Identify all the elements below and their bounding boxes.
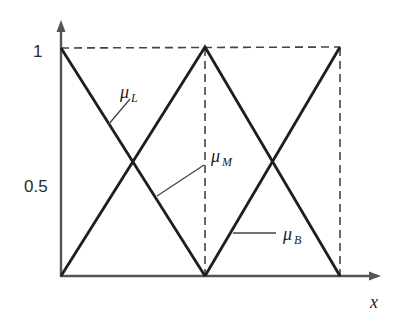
mu-l-symbol: μ [119,82,129,102]
y-tick-0-5: 0.5 [24,177,48,196]
mu-b-subscript: B [294,233,302,247]
dashed-line-top [61,47,340,48]
x-axis-arrow-icon [369,272,381,281]
leader-mu-m [157,165,204,196]
x-axis-label: x [369,292,378,312]
label-mu-m: μ M [210,146,233,169]
label-mu-l: μ L [119,82,138,105]
mu-l-subscript: L [130,91,138,105]
label-mu-b: μ B [282,224,302,247]
mu-b-symbol: μ [282,224,292,244]
y-axis-arrow-icon [57,20,66,32]
leader-mu-l [108,99,130,125]
y-tick-1: 1 [33,42,42,61]
leader-lines [108,99,276,233]
membership-function-diagram: 1 0.5 x μ L μ M μ B [0,0,397,326]
mu-m-symbol: μ [210,146,220,166]
mu-m-subscript: M [221,155,233,169]
